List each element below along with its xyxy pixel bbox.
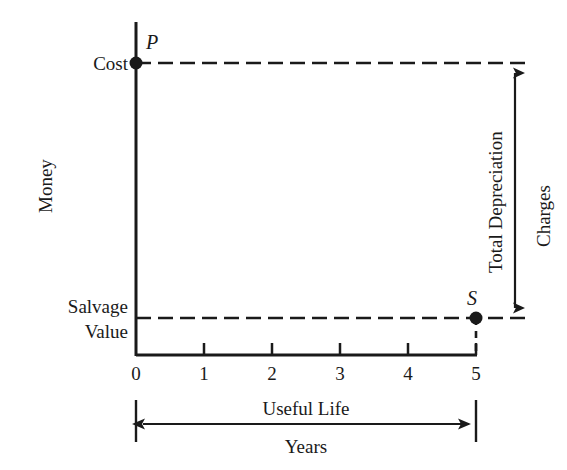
salvage-level-label-line1: Salvage [38,297,128,316]
x-tick-label-5: 5 [461,364,491,383]
data-point-s [470,312,483,325]
years-label: Years [186,437,426,456]
x-tick-label-1: 1 [189,364,219,383]
point-label-s: S [467,288,477,308]
useful-life-label: Useful Life [186,399,426,418]
x-tick-label-4: 4 [393,364,423,383]
cost-level-label: Cost [58,54,128,73]
x-axis-ticks [204,343,476,355]
point-label-p: P [146,32,158,52]
x-tick-label-2: 2 [257,364,287,383]
x-tick-label-3: 3 [325,364,355,383]
depreciation-diagram: Money Cost Salvage Value P S Total Depre… [0,0,567,470]
x-tick-label-0: 0 [121,364,151,383]
salvage-level-label-line2: Value [38,322,128,341]
data-point-p [130,57,143,70]
charges-label: Charges [534,185,553,247]
y-axis-title: Money [36,159,55,213]
total-depreciation-label: Total Depreciation [486,131,505,273]
